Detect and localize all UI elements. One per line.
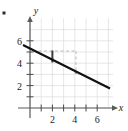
graph-figure: 2 4 6 2 4 6 x y <box>0 0 128 131</box>
y-tick-label-6: 6 <box>17 36 22 47</box>
x-tick-label-6: 6 <box>95 114 100 125</box>
x-axis-label: x <box>118 102 124 113</box>
figure-bullet-icon <box>3 12 6 15</box>
coordinate-plane-chart: 2 4 6 2 4 6 x y <box>0 0 128 131</box>
x-tick-label-4: 4 <box>72 114 77 125</box>
y-tick-label-4: 4 <box>17 58 22 69</box>
y-axis-label: y <box>33 5 39 16</box>
x-axis-arrow-icon <box>112 105 118 111</box>
y-axis-arrow-icon <box>27 16 33 22</box>
x-tick-label-2: 2 <box>50 114 55 125</box>
y-tick-label-2: 2 <box>17 81 22 92</box>
grid-lines <box>30 18 113 108</box>
